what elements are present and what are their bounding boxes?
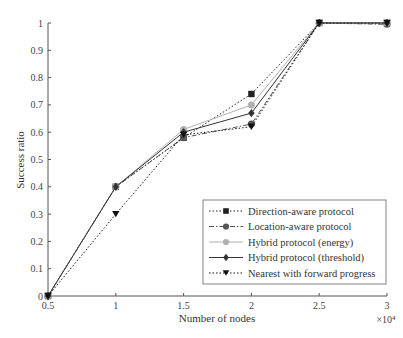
x-tick-label: 2: [249, 300, 254, 311]
x-tick-label: 2.5: [313, 300, 326, 311]
square-marker: [223, 208, 229, 214]
success-ratio-chart: 0.511.522.5300.10.20.30.40.50.60.70.80.9…: [0, 0, 403, 338]
triangle-marker: [112, 211, 119, 217]
x-tick-label: 0.5: [42, 300, 55, 311]
y-tick-label: 0.1: [31, 263, 44, 274]
x-tick-label: 3: [385, 300, 390, 311]
y-tick-label: 0.6: [31, 127, 44, 138]
y-tick-label: 0.9: [31, 45, 44, 56]
y-tick-label: 1: [38, 18, 43, 29]
circle-marker: [223, 239, 229, 245]
legend-label: Location-aware protocol: [248, 221, 352, 232]
y-tick-label: 0.5: [31, 154, 44, 165]
x-tick-label: 1: [113, 300, 118, 311]
x-axis-label: Number of nodes: [179, 312, 255, 324]
triangle-marker: [248, 124, 255, 130]
x-axis-multiplier: ×10⁴: [376, 314, 396, 325]
y-tick-label: 0.2: [31, 236, 44, 247]
legend-label: Direction-aware protocol: [248, 206, 354, 217]
y-tick-label: 0: [38, 291, 43, 302]
legend: Direction-aware protocolLocation-aware p…: [203, 200, 386, 284]
circle-marker: [223, 223, 229, 229]
legend-label: Hybrid protocol (threshold): [248, 252, 365, 264]
y-tick-label: 0.3: [31, 209, 44, 220]
circle-marker: [248, 101, 255, 108]
y-tick-label: 0.4: [31, 181, 44, 192]
legend-label: Nearest with forward progress: [248, 268, 375, 279]
legend-label: Hybrid protocol (energy): [248, 237, 354, 249]
square-marker: [248, 91, 254, 97]
y-axis-label: Success ratio: [14, 131, 26, 189]
y-tick-label: 0.7: [31, 99, 44, 110]
x-tick-label: 1.5: [177, 300, 190, 311]
y-tick-label: 0.8: [31, 72, 44, 83]
